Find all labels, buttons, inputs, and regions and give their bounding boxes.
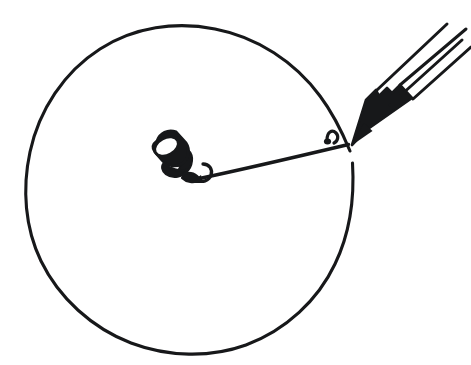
string-knot-pencil-bead: [324, 139, 331, 145]
circle-construction-illustration: [0, 0, 471, 365]
figure-root: Drawing a circle using a pencil, string …: [0, 0, 471, 365]
paper-background: [0, 0, 471, 365]
